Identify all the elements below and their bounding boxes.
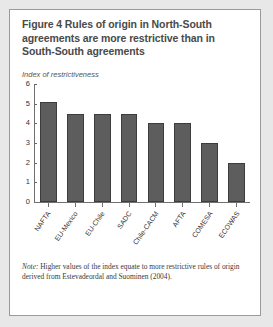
y-axis-tick-label: 0 <box>26 197 30 206</box>
figure-note-label: Note: <box>22 262 38 271</box>
y-axis-unit-label: Index of restrictiveness <box>22 70 99 79</box>
y-axis-tick-label: 4 <box>26 118 30 127</box>
y-axis-tick-label: 1 <box>26 177 30 186</box>
y-axis-tick-label: 5 <box>26 99 30 108</box>
bar <box>228 163 245 202</box>
bar-slot <box>223 84 250 202</box>
x-axis-category-label-text: AFTA <box>171 210 187 228</box>
y-axis-tick-label: 6 <box>26 79 30 88</box>
bar-chart-plot-area: 0123456 NAFTAEU-MexicoEU-ChileSADCChile-… <box>22 84 250 214</box>
x-axis-category-label-text: NAFTA <box>34 210 53 232</box>
bar-slot <box>196 84 223 202</box>
x-axis-category-label-text: SADC <box>116 210 133 230</box>
x-axis-label-slot: Chile-CACM <box>143 208 170 256</box>
bar <box>201 143 218 202</box>
y-axis-tick-label: 2 <box>26 158 30 167</box>
y-axis-tick-label: 3 <box>26 138 30 147</box>
bar-slot <box>62 84 89 202</box>
x-axis-label-slot: EU-Chile <box>89 208 116 256</box>
y-axis-tick-labels: 0123456 <box>22 84 34 202</box>
bar-series <box>35 84 250 202</box>
bar <box>148 123 165 202</box>
bar <box>40 102 57 202</box>
bar-slot <box>35 84 62 202</box>
figure-panel: Figure 4 Rules of origin in North-South … <box>9 9 261 316</box>
bar <box>174 123 191 202</box>
x-axis-category-labels: NAFTAEU-MexicoEU-ChileSADCChile-CACMAFTA… <box>35 208 250 256</box>
figure-note-text: Higher values of the index equate to mor… <box>22 262 240 281</box>
bar-slot <box>143 84 170 202</box>
figure-note: Note: Higher values of the index equate … <box>22 262 248 282</box>
figure-title: Figure 4 Rules of origin in North-South … <box>22 18 250 59</box>
x-axis-label-slot: ECOWAS <box>223 208 250 256</box>
bar <box>121 114 138 203</box>
bar <box>67 114 84 203</box>
bar-slot <box>116 84 143 202</box>
